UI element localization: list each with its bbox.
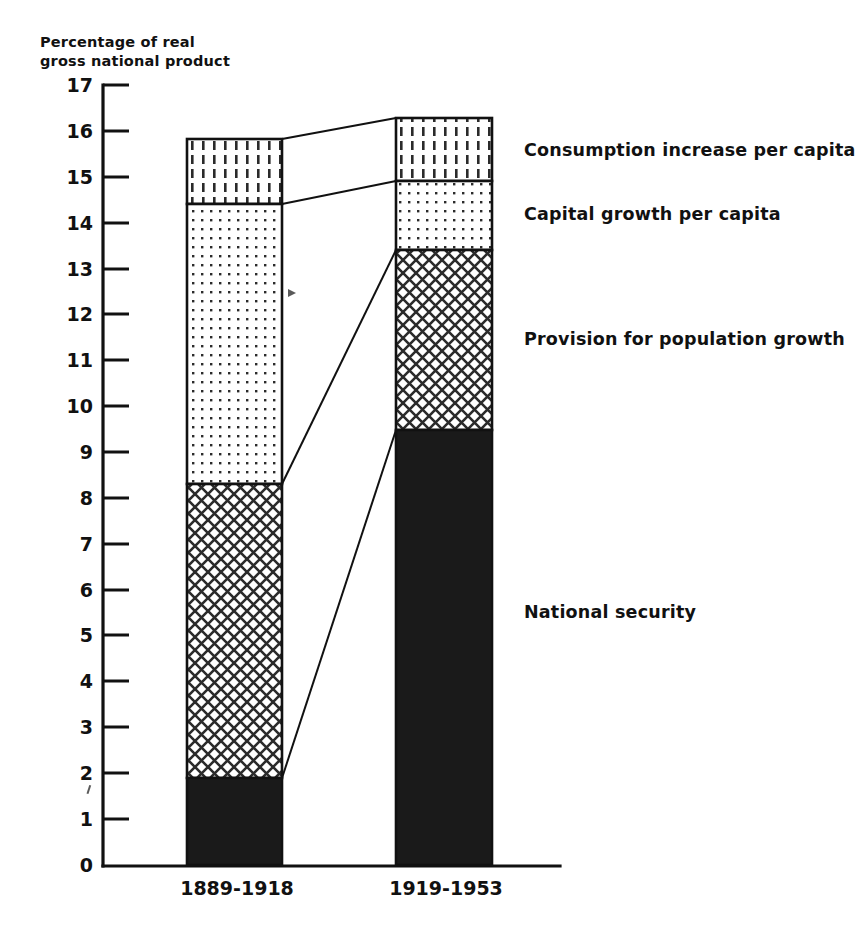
y-tick-label: 9 (80, 441, 93, 463)
y-tick-label: 10 (67, 395, 93, 417)
y-tick-label: 8 (80, 487, 93, 509)
bar-segment-consumption[interactable] (396, 118, 492, 181)
legend: Consumption increase per capita Capital … (524, 140, 856, 622)
bar-segment-capital[interactable] (396, 181, 492, 250)
chart-canvas: Percentage of real gross national produc… (0, 0, 862, 933)
y-axis-tick-labels: 17 16 15 14 13 12 11 10 9 8 7 6 5 4 3 2 … (67, 74, 93, 876)
x-axis-category-labels: 1889-1918 1919-1953 (180, 877, 503, 899)
bar-segment-capital[interactable] (187, 204, 282, 484)
bar-segment-security[interactable] (187, 778, 282, 865)
stacked-bar-chart: 17 16 15 14 13 12 11 10 9 8 7 6 5 4 3 2 … (0, 0, 862, 933)
bar-segment-population[interactable] (187, 484, 282, 778)
segment-connectors (282, 118, 396, 778)
y-tick-label: 3 (80, 716, 93, 738)
bar-segment-population[interactable] (396, 250, 492, 430)
y-tick-label: 6 (80, 579, 93, 601)
y-tick-label: 14 (67, 212, 93, 234)
category-label-2: 1919-1953 (389, 877, 503, 899)
y-tick-label: 1 (80, 808, 93, 830)
bar-1889-1918[interactable] (187, 139, 282, 865)
y-tick-label: 7 (80, 533, 93, 555)
y-tick-label: 16 (67, 120, 93, 142)
legend-label-consumption: Consumption increase per capita (524, 140, 856, 160)
bar-segment-security[interactable] (396, 430, 492, 865)
category-label-1: 1889-1918 (180, 877, 294, 899)
y-axis-ticks (103, 85, 129, 819)
legend-label-capital: Capital growth per capita (524, 204, 781, 224)
y-tick-label: 11 (67, 349, 93, 371)
y-tick-label: 0 (80, 854, 93, 876)
y-tick-label: 5 (80, 624, 93, 646)
bar-segment-consumption[interactable] (187, 139, 282, 204)
legend-label-security: National security (524, 602, 697, 622)
y-tick-label: 13 (67, 258, 93, 280)
legend-label-population: Provision for population growth (524, 329, 845, 349)
bar-1919-1953[interactable] (396, 118, 492, 865)
y-tick-label: 4 (80, 670, 93, 692)
y-tick-label: 17 (67, 74, 93, 96)
y-tick-label: 15 (67, 166, 93, 188)
y-tick-label: 2 (80, 762, 93, 784)
y-tick-label: 12 (67, 303, 93, 325)
